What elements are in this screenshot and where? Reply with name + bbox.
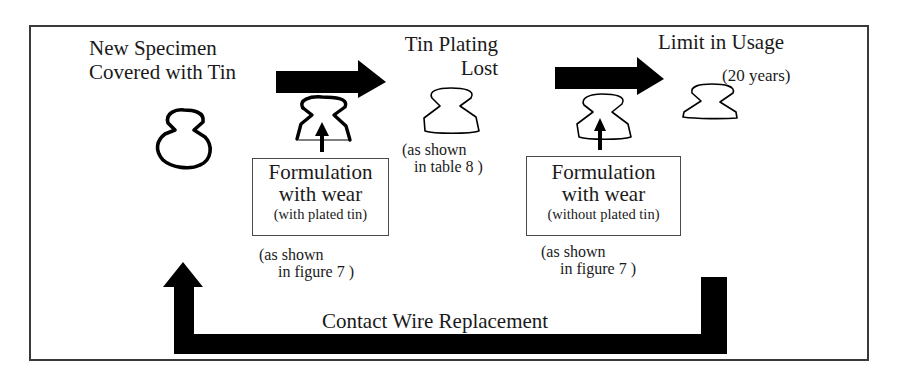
stage-new-title-line1: New Specimen bbox=[89, 36, 236, 60]
worn-contact-wire-cross-section-icon bbox=[424, 88, 479, 133]
formulation-without-tin-box: Formulation with wear (without plated ti… bbox=[526, 156, 681, 236]
stage-lost-title: Tin Plating Lost bbox=[380, 32, 498, 80]
wear-arrow-2-icon bbox=[594, 118, 606, 150]
stage-new-title-line2: Covered with Tin bbox=[89, 60, 236, 84]
progress-arrow-1-icon bbox=[276, 60, 386, 98]
formulation-with-tin-note: (as shown in figure 7 ) bbox=[259, 246, 354, 280]
stage-new-title: New Specimen Covered with Tin bbox=[89, 36, 236, 84]
formulation-without-tin-sub: (without plated tin) bbox=[527, 205, 680, 223]
formulation-without-tin-line1: Formulation bbox=[527, 161, 680, 183]
formulation-with-tin-line2: with wear bbox=[253, 183, 388, 205]
formulation-without-tin-line2: with wear bbox=[527, 183, 680, 205]
formulation-without-tin-note: (as shown in figure 7 ) bbox=[541, 243, 636, 277]
stage-lost-note: (as shown in table 8 ) bbox=[402, 141, 483, 175]
formulation-without-tin-note-line1: (as shown bbox=[541, 243, 636, 260]
wear-arrow-1-icon bbox=[315, 122, 329, 152]
worn-unplated-cross-section-icon bbox=[577, 94, 631, 139]
formulation-with-tin-note-line2: in figure 7 ) bbox=[259, 263, 354, 280]
new-contact-wire-cross-section-icon bbox=[157, 110, 210, 168]
stage-lost-note-line2: in table 8 ) bbox=[402, 158, 483, 175]
formulation-with-tin-note-line1: (as shown bbox=[259, 246, 354, 263]
replacement-loop-arrow-icon bbox=[163, 262, 727, 354]
formulation-with-tin-box: Formulation with wear (with plated tin) bbox=[252, 158, 389, 236]
formulation-with-tin-line1: Formulation bbox=[253, 161, 388, 183]
replacement-label: Contact Wire Replacement bbox=[322, 309, 548, 333]
stage-lost-title-line2: Lost bbox=[380, 56, 498, 80]
limit-contact-wire-cross-section-icon bbox=[683, 84, 737, 119]
stage-limit-title: Limit in Usage bbox=[658, 30, 784, 54]
formulation-with-tin-sub: (with plated tin) bbox=[253, 205, 388, 223]
stage-lost-note-line1: (as shown bbox=[402, 141, 483, 158]
stage-lost-title-line1: Tin Plating bbox=[380, 32, 498, 56]
progress-arrow-2-icon bbox=[555, 57, 664, 95]
formulation-without-tin-note-line2: in figure 7 ) bbox=[541, 260, 636, 277]
stage-limit-subtitle: (20 years) bbox=[722, 67, 790, 84]
